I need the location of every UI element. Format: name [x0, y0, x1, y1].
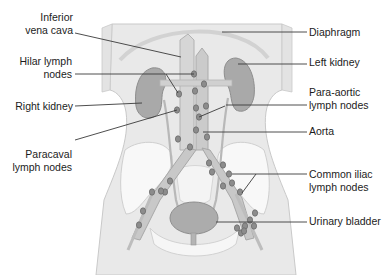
label-urinary-bladder: Urinary bladder — [309, 215, 381, 228]
inferior-vena-cava-vessel — [180, 34, 194, 150]
urinary-bladder-shape — [170, 202, 218, 234]
label-para-aortic-lymph-nodes: Para-aortic lymph nodes — [309, 86, 369, 111]
left-arm-outline — [282, 24, 292, 92]
label-common-iliac-lymph-nodes: Common iliac lymph nodes — [309, 168, 373, 193]
urethra — [191, 233, 196, 245]
right-arm-outline — [102, 24, 112, 92]
label-right-kidney: Right kidney — [0, 100, 73, 113]
anatomy-illustration — [0, 0, 388, 275]
label-diaphragm: Diaphragm — [309, 26, 360, 39]
anatomy-figure: Inferior vena cava Hilar lymph nodes Rig… — [0, 0, 388, 275]
sacrum — [176, 166, 214, 205]
label-hilar-lymph-nodes: Hilar lymph nodes — [0, 55, 72, 80]
label-paracaval-lymph-nodes: Paracaval lymph nodes — [0, 148, 72, 173]
label-aorta: Aorta — [309, 125, 334, 138]
label-left-kidney: Left kidney — [309, 56, 360, 69]
label-inferior-vena-cava: Inferior vena cava — [0, 11, 73, 36]
